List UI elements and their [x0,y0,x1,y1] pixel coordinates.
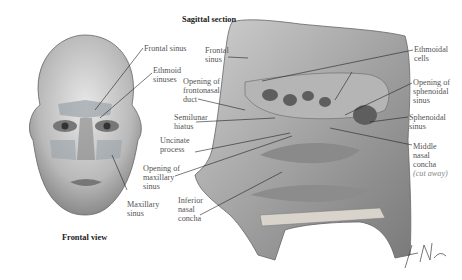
frontal-face-illustration [29,35,141,215]
signature-mark [405,243,446,268]
label-frontal-sinus-sagittal: Frontal sinus [205,46,229,64]
label-middle-nasal-concha: Middle nasal concha [413,142,437,169]
label-cut-away: (cut away) [413,169,448,178]
label-opening-sphenoidal-sinus: Opening of sphenoidal sinus [413,78,450,105]
label-opening-frontonasal-duct: Opening of frontonasal duct [183,77,220,104]
label-sphenoidal-sinus: Sphenoidal sinus [409,113,446,131]
label-opening-maxillary-sinus: Opening of maxillary sinus [143,164,180,191]
label-uncinate-process: Uncinate process [160,136,190,154]
label-inferior-nasal-concha: Inferior nasal concha [178,196,203,223]
label-ethmoid-sinuses: Ethmoid sinuses [153,66,181,84]
label-frontal-sinus-frontal: Frontal sinus [144,44,187,53]
frontal-view-caption: Frontal view [62,233,107,242]
label-ethmoidal-cells: Ethmoidal cells [414,45,448,63]
label-semilunar-hiatus: Semilunar hiatus [174,113,208,131]
label-maxillary-sinus: Maxillary sinus [127,200,159,218]
sagittal-section-caption: Sagittal section [182,15,236,24]
